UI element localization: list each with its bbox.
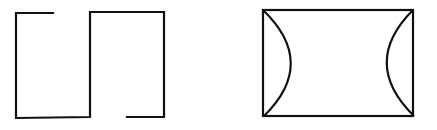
line-drawing-figure [0,0,437,130]
right-figure-left-arc [263,10,291,116]
diagram-canvas [0,0,437,130]
right-figure-right-arc [387,10,414,116]
left-figure-open-rectangles [16,12,164,118]
right-figure-rectangle [263,10,413,116]
